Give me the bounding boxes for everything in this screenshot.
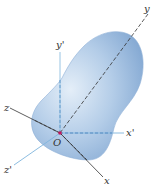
origin-label: O bbox=[53, 137, 61, 148]
origin-point bbox=[58, 131, 62, 135]
y-prime-label: y' bbox=[55, 39, 64, 50]
z-label: z bbox=[3, 102, 10, 113]
x-label: x bbox=[104, 175, 110, 185]
z-prime-label: z' bbox=[3, 164, 12, 175]
y-label: y bbox=[143, 3, 150, 14]
rigid-body-diagram: O y x z y' x' z' bbox=[0, 0, 154, 185]
x-prime-label: x' bbox=[126, 127, 134, 138]
